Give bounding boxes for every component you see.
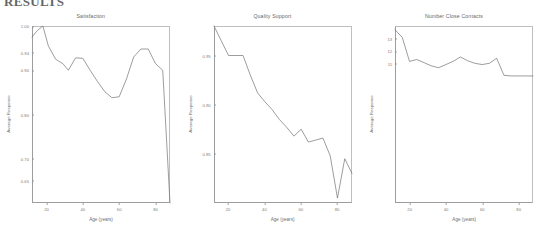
y-tick-label: 0.94 bbox=[21, 50, 32, 55]
series-line bbox=[214, 26, 352, 198]
y-tick-label: 0.65 bbox=[21, 178, 32, 183]
chart-title: Quality Support bbox=[182, 13, 364, 19]
series-number-close-contacts bbox=[395, 26, 533, 203]
y-tick-label: 0.70 bbox=[21, 156, 32, 161]
y-tick-label: 12 bbox=[388, 49, 396, 54]
x-axis-label: Age (years) bbox=[395, 217, 533, 222]
x-tick-label: 40 bbox=[80, 207, 85, 212]
chart-panel-satisfaction: Satisfaction Average Response 204060801.… bbox=[0, 10, 182, 243]
series-satisfaction bbox=[32, 26, 170, 203]
y-axis-label: Average Response bbox=[369, 95, 374, 132]
y-axis-label: Average Response bbox=[6, 95, 11, 132]
series-quality-support bbox=[214, 26, 352, 203]
y-tick-label: 13 bbox=[388, 36, 396, 41]
y-tick-label: 0.85 bbox=[202, 151, 213, 156]
y-tick-label: 0.80 bbox=[21, 112, 32, 117]
chart-title: Number Close Contacts bbox=[363, 13, 545, 19]
y-axis-label: Average Response bbox=[187, 95, 192, 132]
x-tick-label: 80 bbox=[153, 207, 158, 212]
chart-title: Satisfaction bbox=[0, 13, 182, 19]
x-tick-label: 40 bbox=[262, 207, 267, 212]
x-tick-label: 80 bbox=[335, 207, 340, 212]
x-tick-label: 40 bbox=[444, 207, 449, 212]
x-tick-label: 20 bbox=[226, 207, 231, 212]
y-tick-label: 0.95 bbox=[202, 53, 213, 58]
x-axis-label: Age (years) bbox=[214, 217, 352, 222]
x-tick-label: 60 bbox=[298, 207, 303, 212]
plot-area: 20406080131211 bbox=[395, 26, 533, 203]
y-tick-label: 0.90 bbox=[21, 68, 32, 73]
chart-panel-quality-support: Quality Support Average Response 2040608… bbox=[182, 10, 364, 243]
x-tick-label: 80 bbox=[516, 207, 521, 212]
series-line bbox=[395, 30, 533, 76]
chart-panel-number-close-contacts: Number Close Contacts Average Response 2… bbox=[363, 10, 545, 243]
plot-area: 204060800.950.900.85 bbox=[214, 26, 352, 203]
x-axis-label: Age (years) bbox=[32, 217, 170, 222]
y-tick-label: 0.90 bbox=[202, 102, 213, 107]
y-tick-label: 1.00 bbox=[21, 24, 32, 29]
plot-area: 204060801.000.940.900.800.700.65 bbox=[32, 26, 170, 203]
x-tick-label: 60 bbox=[480, 207, 485, 212]
page-heading: RESULTS bbox=[4, 0, 64, 10]
x-tick-label: 20 bbox=[44, 207, 49, 212]
series-line bbox=[32, 26, 170, 203]
x-tick-label: 60 bbox=[117, 207, 122, 212]
y-tick-label: 11 bbox=[388, 61, 395, 66]
x-tick-label: 20 bbox=[407, 207, 412, 212]
figure-row: Satisfaction Average Response 204060801.… bbox=[0, 10, 545, 243]
